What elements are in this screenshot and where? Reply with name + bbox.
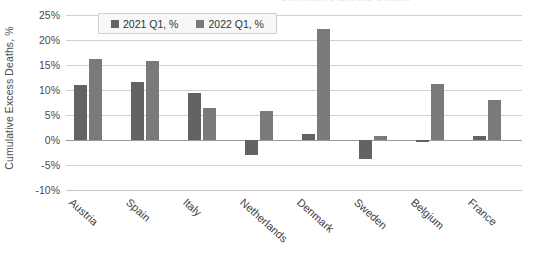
x-axis-tick-labels: AustriaSpainItalyNetherlandsDenmarkSwede…: [66, 190, 522, 263]
x-axis-tick: Sweden: [352, 196, 390, 232]
x-axis-tick: Italy: [181, 196, 204, 218]
bar: [74, 85, 87, 140]
y-axis-tick: 25%: [16, 9, 60, 21]
x-axis-tick: Austria: [67, 196, 100, 228]
legend-item[interactable]: 2022 Q1, %: [196, 18, 263, 30]
legend-label: 2022 Q1, %: [208, 18, 263, 30]
bar: [131, 82, 144, 141]
bar: [488, 100, 501, 140]
x-axis-tick: Belgium: [409, 196, 447, 232]
bar: [203, 108, 216, 141]
y-axis-tick: 5%: [16, 109, 60, 121]
y-axis-title: Cumulative Excess Deaths, %: [0, 0, 18, 196]
bar: [188, 93, 201, 140]
y-axis-tick: -10%: [16, 184, 60, 196]
x-axis-tick: Netherlands: [238, 196, 290, 245]
chart-title: Cumulative Excess Deaths: [180, 0, 510, 3]
bar: [89, 59, 102, 140]
bar: [431, 84, 444, 141]
bar-group: [66, 15, 123, 190]
bar-group: [465, 15, 522, 190]
y-axis-tick: 0%: [16, 134, 60, 146]
legend-swatch-icon: [196, 20, 204, 28]
legend-swatch-icon: [111, 20, 119, 28]
bar: [473, 136, 486, 140]
bar-group: [237, 15, 294, 190]
bar: [146, 61, 159, 140]
y-axis-tick: 10%: [16, 84, 60, 96]
bar-group: [294, 15, 351, 190]
y-axis-title-label: Cumulative Excess Deaths, %: [3, 26, 15, 169]
plot-area: [66, 15, 522, 190]
bar: [374, 136, 387, 140]
bar: [245, 140, 258, 155]
bar-group: [351, 15, 408, 190]
bar-group: [180, 15, 237, 190]
bar: [416, 140, 429, 142]
legend-label: 2021 Q1, %: [123, 18, 178, 30]
chart-legend: 2021 Q1, %2022 Q1, %: [98, 13, 277, 34]
bar-group: [408, 15, 465, 190]
bar: [260, 111, 273, 140]
bar: [302, 134, 315, 140]
y-axis-tick: 20%: [16, 34, 60, 46]
x-axis-tick: Denmark: [295, 196, 336, 235]
x-axis-tick: France: [466, 196, 499, 228]
excess-deaths-bar-chart: Cumulative Excess Deaths Cumulative Exce…: [0, 0, 537, 263]
x-axis-tick: Spain: [124, 196, 153, 224]
y-axis-tick: 15%: [16, 59, 60, 71]
bar: [317, 29, 330, 140]
bar: [359, 140, 372, 159]
bar-group: [123, 15, 180, 190]
legend-item[interactable]: 2021 Q1, %: [111, 18, 178, 30]
y-axis-tick: -5%: [16, 159, 60, 171]
